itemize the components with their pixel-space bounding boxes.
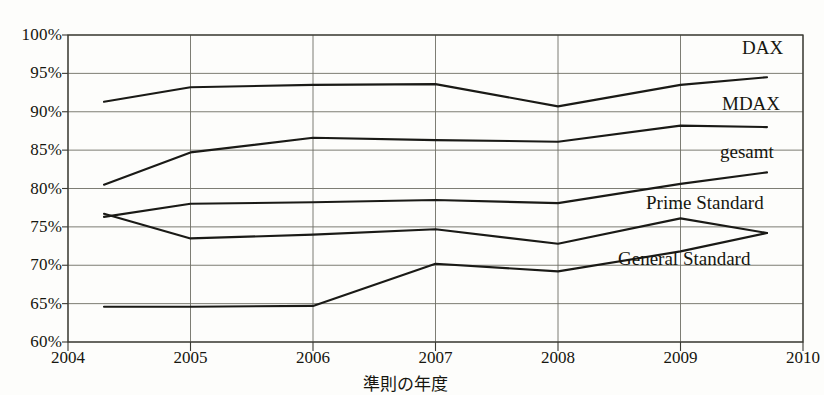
x-axis-title: 準則の年度	[0, 370, 810, 395]
gridlines-group	[68, 35, 803, 342]
y-axis-tick-label: 85%	[6, 141, 62, 158]
x-axis-tick-label: 2008	[518, 348, 598, 368]
series-label-gesamt: gesamt	[720, 142, 774, 161]
series-label-prime-standard: Prime Standard	[646, 193, 764, 212]
series-label-mdax: MDAX	[722, 94, 780, 113]
y-axis-tick-label: 90%	[6, 103, 62, 120]
y-axis-tick-label: 80%	[6, 180, 62, 197]
y-axis-tick-label: 65%	[6, 295, 62, 312]
y-axis-tick-label: 100%	[6, 26, 62, 43]
y-axis-tick-label: 75%	[6, 218, 62, 235]
y-axis-tick-label: 95%	[6, 64, 62, 81]
y-axis-tick-label: 70%	[6, 256, 62, 273]
series-label-dax: DAX	[742, 38, 783, 57]
x-axis-tick-label: 2009	[641, 348, 721, 368]
x-axis-tick-label: 2010	[763, 348, 824, 368]
x-axis-tick-label: 2007	[396, 348, 476, 368]
x-axis-tick-label: 2006	[273, 348, 353, 368]
x-axis-tick-label: 2005	[151, 348, 231, 368]
series-label-general-standard: General Standard	[618, 249, 750, 268]
x-axis-tick-label: 2004	[28, 348, 108, 368]
